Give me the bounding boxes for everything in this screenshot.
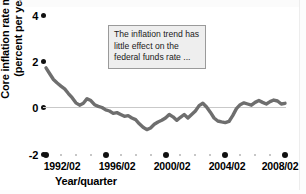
x-tick-dot-minor — [120, 154, 122, 156]
series-line-core-inflation — [46, 68, 285, 130]
annotation-line-3: federal funds rate ... — [114, 52, 201, 64]
annotation-line-2: little effect on the — [114, 41, 201, 53]
x-tick-label-2000: 2000/02 — [154, 160, 191, 172]
x-tick-label-1996: 1996/02 — [99, 160, 136, 172]
x-axis-title: Year/quarter — [55, 175, 117, 187]
x-tick-dot-major — [163, 152, 169, 158]
chart-figure: Core inflation rate minus 2 (percent per… — [0, 0, 306, 194]
x-tick-label-2004: 2004/02 — [209, 160, 246, 172]
annotation-callout: The inflation trend has little effect on… — [108, 25, 206, 69]
x-tick-dot-major — [43, 152, 49, 158]
x-tick-dot-minor — [60, 154, 62, 156]
x-tick-label-1992: 1992/02 — [44, 160, 81, 172]
x-tick-dot-minor — [150, 154, 152, 156]
x-tick-dot-minor — [75, 154, 77, 156]
x-tick-dot-minor — [90, 154, 92, 156]
x-tick-dot-major — [103, 152, 109, 158]
x-tick-dot-major — [282, 152, 288, 158]
x-tick-label-2008: 2008/02 — [262, 160, 299, 172]
annotation-line-1: The inflation trend has — [114, 29, 201, 41]
x-tick-dot-minor — [135, 154, 137, 156]
